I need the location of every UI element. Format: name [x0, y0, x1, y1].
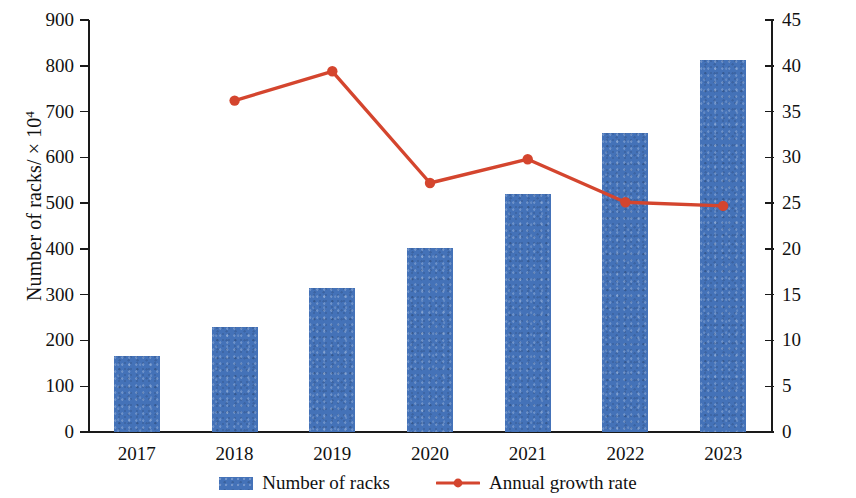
growth-marker-2020 — [425, 178, 435, 188]
right-tick-label: 5 — [782, 376, 856, 395]
legend-label-annual-growth-rate: Annual growth rate — [489, 472, 637, 494]
right-tick-label: 45 — [782, 10, 856, 29]
x-tick-label-2023: 2023 — [678, 443, 768, 465]
x-tick-label-2022: 2022 — [580, 443, 670, 465]
right-tick-label: 30 — [782, 147, 856, 166]
bar-2022 — [602, 133, 648, 432]
bar-2017 — [114, 356, 160, 432]
x-tick-label-2020: 2020 — [385, 443, 475, 465]
left-tick-label: 200 — [0, 330, 74, 349]
bar-swatch-icon — [219, 477, 253, 490]
right-tick-label: 0 — [782, 422, 856, 441]
bar-2020 — [407, 248, 453, 432]
x-tick-label-2019: 2019 — [287, 443, 377, 465]
left-tick-label: 600 — [0, 147, 74, 166]
left-tick-label: 400 — [0, 239, 74, 258]
right-tick-label: 35 — [782, 102, 856, 121]
chart-figure: Number of racks/ × 104 Annual growth rat… — [0, 0, 856, 498]
right-tick-label: 10 — [782, 330, 856, 349]
bar-2019 — [309, 288, 355, 432]
line-marker-icon — [436, 476, 480, 490]
left-tick-label: 500 — [0, 193, 74, 212]
growth-marker-2018 — [229, 95, 239, 105]
left-tick-label: 100 — [0, 376, 74, 395]
plot-area — [88, 20, 772, 432]
legend-label-number-of-racks: Number of racks — [262, 472, 390, 494]
left-tick-label: 900 — [0, 10, 74, 29]
left-tick-label: 0 — [0, 422, 74, 441]
right-tick-label: 40 — [782, 56, 856, 75]
x-tick-label-2017: 2017 — [92, 443, 182, 465]
growth-marker-2021 — [523, 154, 533, 164]
chart-legend: Number of racks Annual growth rate — [0, 472, 856, 494]
x-tick-label-2018: 2018 — [190, 443, 280, 465]
legend-item-number-of-racks: Number of racks — [219, 472, 390, 494]
right-tick-label: 25 — [782, 193, 856, 212]
bar-2018 — [212, 327, 258, 432]
left-tick-label: 800 — [0, 56, 74, 75]
x-tick-label-2021: 2021 — [483, 443, 573, 465]
growth-rate-markers — [229, 66, 728, 211]
legend-item-annual-growth-rate: Annual growth rate — [436, 472, 637, 494]
growth-marker-2019 — [327, 66, 337, 76]
right-tick-label: 20 — [782, 239, 856, 258]
growth-rate-line — [235, 71, 723, 206]
right-tick-label: 15 — [782, 285, 856, 304]
left-tick-label: 300 — [0, 285, 74, 304]
bar-2023 — [700, 60, 746, 432]
bar-2021 — [505, 194, 551, 432]
left-tick-label: 700 — [0, 102, 74, 121]
